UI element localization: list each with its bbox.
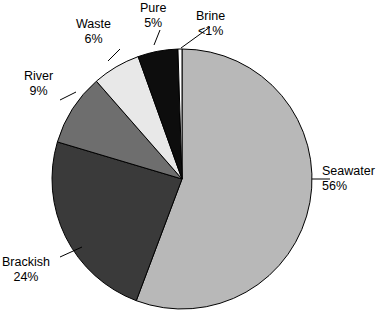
leader-line-pure <box>154 30 160 45</box>
pie-label-brackish-value: 24% <box>2 270 50 285</box>
pie-label-brine-name: Brine <box>196 9 225 24</box>
pie-chart-canvas <box>0 0 389 321</box>
pie-chart: Seawater 56% Brackish 24% River 9% Waste… <box>0 0 389 321</box>
pie-label-seawater-name: Seawater <box>322 164 375 179</box>
pie-label-pure-value: 5% <box>140 16 166 31</box>
pie-label-waste-value: 6% <box>76 32 111 47</box>
leader-line-river <box>60 92 76 100</box>
pie-label-seawater-value: 56% <box>322 179 375 194</box>
pie-label-pure: Pure 5% <box>140 1 166 30</box>
pie-label-brine-value: <1% <box>196 24 225 39</box>
pie-label-brackish: Brackish 24% <box>2 255 50 284</box>
pie-label-waste-name: Waste <box>76 17 111 32</box>
pie-label-seawater: Seawater 56% <box>322 164 375 193</box>
pie-slice-group <box>52 49 312 309</box>
pie-label-river: River 9% <box>24 69 53 98</box>
pie-label-river-name: River <box>24 69 53 84</box>
leader-line-waste <box>108 49 120 61</box>
pie-label-brackish-name: Brackish <box>2 255 50 270</box>
pie-label-waste: Waste 6% <box>76 17 111 46</box>
pie-label-river-value: 9% <box>24 84 53 99</box>
pie-label-pure-name: Pure <box>140 1 166 16</box>
pie-label-brine: Brine <1% <box>196 9 225 38</box>
